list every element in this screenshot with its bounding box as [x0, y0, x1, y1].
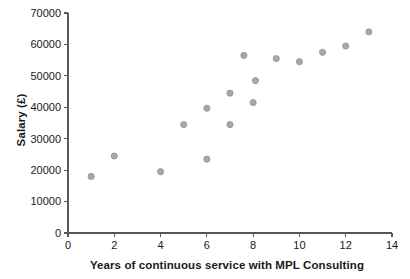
data-point [241, 52, 247, 58]
y-tick-label: 30000 [30, 133, 61, 145]
data-point [204, 156, 210, 162]
x-axis-group: 02468101214 [65, 233, 398, 251]
x-tick-label: 6 [204, 239, 210, 251]
x-axis-title: Years of continuous service with MPL Con… [0, 259, 410, 271]
scatter-chart: Salary (£) 01000020000300004000050000600… [0, 0, 410, 279]
data-point [111, 153, 117, 159]
x-tick-label: 0 [65, 239, 71, 251]
data-point [252, 77, 258, 83]
data-points-group [88, 29, 372, 180]
data-point [88, 173, 94, 179]
y-tick-label: 50000 [30, 70, 61, 82]
x-tick-label: 2 [111, 239, 117, 251]
data-point [319, 49, 325, 55]
data-point [296, 59, 302, 65]
data-point [227, 121, 233, 127]
x-tick-label: 12 [340, 239, 352, 251]
data-point [204, 105, 210, 111]
y-axis-group: 010000200003000040000500006000070000 [30, 7, 68, 239]
data-point [157, 169, 163, 175]
y-tick-label: 0 [55, 227, 61, 239]
data-point [343, 43, 349, 49]
data-point [250, 99, 256, 105]
y-tick-label: 40000 [30, 101, 61, 113]
x-tick-label: 4 [158, 239, 164, 251]
y-tick-label: 70000 [30, 7, 61, 19]
y-tick-label: 20000 [30, 164, 61, 176]
y-tick-label: 10000 [30, 195, 61, 207]
data-point [366, 29, 372, 35]
x-tick-label: 10 [293, 239, 305, 251]
data-point [273, 55, 279, 61]
data-point [227, 90, 233, 96]
data-point [181, 121, 187, 127]
plot-area: 010000200003000040000500006000070000 024… [0, 0, 410, 279]
x-tick-label: 8 [250, 239, 256, 251]
y-tick-label: 60000 [30, 38, 61, 50]
x-tick-label: 14 [386, 239, 398, 251]
